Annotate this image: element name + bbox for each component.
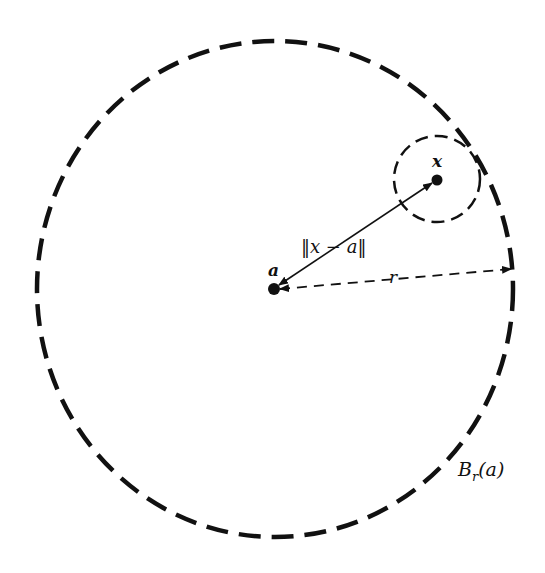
radius-label: r bbox=[389, 267, 398, 287]
label-a: a bbox=[268, 260, 279, 280]
distance-label: ‖x − a‖ bbox=[301, 236, 366, 258]
distance-arrow bbox=[279, 183, 432, 285]
ball-label: Br(a) bbox=[457, 458, 504, 484]
ball-label-arg: (a) bbox=[478, 458, 504, 480]
point-a bbox=[268, 283, 280, 295]
point-x bbox=[432, 175, 443, 186]
label-x: x bbox=[431, 151, 443, 171]
ball-label-main: B bbox=[457, 458, 472, 480]
ball-diagram: a x ‖x − a‖ r Br(a) bbox=[0, 0, 545, 573]
